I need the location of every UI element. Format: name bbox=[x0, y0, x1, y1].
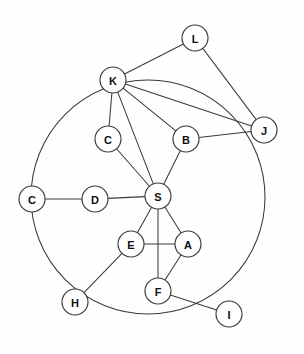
edge-S-A bbox=[165, 207, 181, 233]
node-layer: LKJCBCDSEAFHI bbox=[19, 25, 277, 327]
edge-D-S bbox=[108, 197, 145, 199]
node-K[interactable]: K bbox=[100, 67, 126, 93]
node-circle-H[interactable] bbox=[62, 289, 88, 315]
edge-L-K bbox=[125, 44, 184, 74]
edge-B-J bbox=[199, 131, 251, 137]
node-E[interactable]: E bbox=[118, 231, 144, 257]
node-D[interactable]: D bbox=[82, 186, 108, 212]
node-L[interactable]: L bbox=[182, 25, 208, 51]
edge-C1-S bbox=[117, 149, 150, 186]
node-circle-L[interactable] bbox=[182, 25, 208, 51]
edge-K-B bbox=[123, 88, 176, 131]
node-circle-S[interactable] bbox=[145, 183, 171, 209]
edge-A-F bbox=[165, 255, 181, 280]
node-C2[interactable]: C bbox=[19, 186, 45, 212]
edge-L-J bbox=[203, 48, 256, 119]
edge-F-I bbox=[170, 295, 216, 310]
node-circle-C2[interactable] bbox=[19, 186, 45, 212]
edge-E-H bbox=[84, 253, 122, 292]
node-circle-C1[interactable] bbox=[95, 126, 121, 152]
diagram-canvas: LKJCBCDSEAFHI bbox=[0, 0, 304, 354]
node-circle-E[interactable] bbox=[118, 231, 144, 257]
node-circle-F[interactable] bbox=[145, 278, 171, 304]
node-S[interactable]: S bbox=[145, 183, 171, 209]
node-B[interactable]: B bbox=[173, 126, 199, 152]
edge-K-C1 bbox=[109, 93, 112, 126]
node-circle-A[interactable] bbox=[175, 231, 201, 257]
edge-B-S bbox=[164, 151, 181, 185]
graph-diagram: LKJCBCDSEAFHI bbox=[0, 0, 304, 354]
node-F[interactable]: F bbox=[145, 278, 171, 304]
node-circle-D[interactable] bbox=[82, 186, 108, 212]
node-circle-K[interactable] bbox=[100, 67, 126, 93]
node-circle-I[interactable] bbox=[216, 301, 242, 327]
node-circle-J[interactable] bbox=[251, 117, 277, 143]
node-C1[interactable]: C bbox=[95, 126, 121, 152]
edge-layer bbox=[45, 44, 256, 310]
node-H[interactable]: H bbox=[62, 289, 88, 315]
node-I[interactable]: I bbox=[216, 301, 242, 327]
node-circle-B[interactable] bbox=[173, 126, 199, 152]
node-A[interactable]: A bbox=[175, 231, 201, 257]
node-J[interactable]: J bbox=[251, 117, 277, 143]
edge-S-E bbox=[137, 207, 151, 232]
